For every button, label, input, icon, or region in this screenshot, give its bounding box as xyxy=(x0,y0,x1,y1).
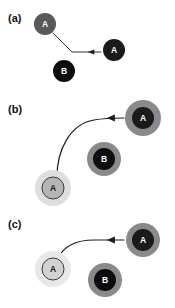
a-node-a-target: A xyxy=(103,39,125,61)
figure-canvas: (a)AAB(b)ABA(c)ABA xyxy=(0,0,175,308)
a-node-a-origin-letter: A xyxy=(42,19,48,29)
c-node-b: B xyxy=(88,263,122,297)
a-node-b: B xyxy=(53,60,75,82)
c-node-a-target-letter: A xyxy=(140,235,146,245)
figure-background xyxy=(0,0,175,308)
c-node-a-target: A xyxy=(126,223,160,257)
b-node-b: B xyxy=(87,142,121,176)
c-node-a-origin-letter: A xyxy=(50,264,56,274)
b-node-a-target-letter: A xyxy=(140,113,146,123)
figure-container: (a)AAB(b)ABA(c)ABA xyxy=(0,0,175,308)
b-node-a-target: A xyxy=(125,100,161,136)
b-node-b-letter: B xyxy=(101,154,107,164)
panel-a-label: (a) xyxy=(8,12,22,24)
a-node-a-target-letter: A xyxy=(111,45,117,55)
c-node-a-origin: A xyxy=(35,251,71,287)
a-node-b-letter: B xyxy=(61,66,67,76)
b-node-a-origin: A xyxy=(35,170,71,206)
panel-b-label: (b) xyxy=(8,103,22,115)
b-node-a-origin-letter: A xyxy=(50,183,56,193)
a-node-a-origin: A xyxy=(34,13,56,35)
c-node-b-letter: B xyxy=(102,275,108,285)
panel-c-label: (c) xyxy=(8,218,22,230)
